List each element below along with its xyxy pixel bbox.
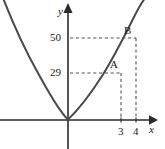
point-label-b: B <box>124 25 131 36</box>
x-tick-label-4: 4 <box>133 126 139 137</box>
point-label-a: A <box>110 59 118 70</box>
x-axis-label: x <box>149 124 154 135</box>
parabola-curve <box>3 0 146 120</box>
figure-canvas <box>0 0 165 149</box>
y-tick-label-29: 29 <box>50 67 61 78</box>
parabola-figure: y x 50 29 3 4 A B <box>0 0 165 149</box>
y-axis-arrowhead <box>63 3 72 13</box>
y-tick-label-50: 50 <box>50 32 61 43</box>
x-tick-label-3: 3 <box>118 126 124 137</box>
y-axis-label: y <box>58 6 63 17</box>
